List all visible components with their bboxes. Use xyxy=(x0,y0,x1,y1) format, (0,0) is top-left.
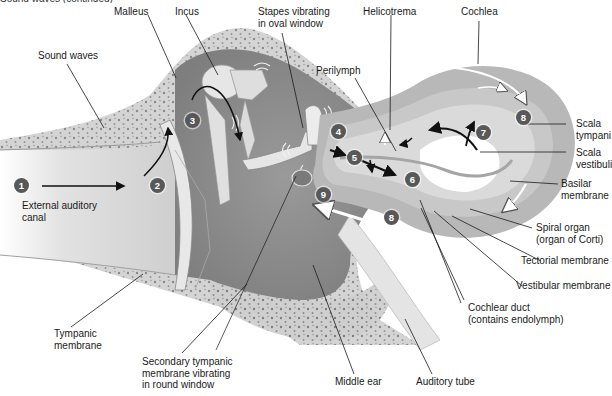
label-secondary-tympanic-membrane: Secondary tympanic membrane vibrating in… xyxy=(142,356,233,391)
step-badge-2: 2 xyxy=(150,178,165,193)
step-badge-7: 7 xyxy=(476,125,491,140)
label-auditory-tube: Auditory tube xyxy=(416,376,475,388)
label-scala-tympani: Scala tympani xyxy=(576,118,611,141)
step-badge-9: 9 xyxy=(316,187,331,202)
label-stapes: Stapes vibrating in oval window xyxy=(258,6,330,29)
label-perilymph: Perilymph xyxy=(316,65,360,77)
label-external-auditory-canal: External auditory canal xyxy=(22,200,97,223)
label-helicotrema: Helicotrema xyxy=(363,6,416,18)
label-incus: Incus xyxy=(175,6,199,18)
step-badge-6: 6 xyxy=(405,172,420,187)
step-badge-5: 5 xyxy=(347,150,362,165)
label-spiral-organ: Spiral organ (organ of Corti) xyxy=(536,222,603,245)
label-tectorial-membrane: Tectorial membrane xyxy=(521,255,609,267)
label-sound-waves: Sound waves xyxy=(38,50,98,62)
label-basilar-membrane: Basilar membrane xyxy=(561,178,609,201)
cut-off-header: Sound waves (continued) xyxy=(0,0,220,3)
step-badge-1: 1 xyxy=(14,178,29,193)
label-scala-vestibuli: Scala vestibuli xyxy=(576,147,612,170)
step-badge-8-cochlea: 8 xyxy=(516,110,531,125)
label-tympanic-membrane: Tympanic membrane xyxy=(54,328,102,351)
label-malleus: Malleus xyxy=(114,6,148,18)
step-badge-3: 3 xyxy=(185,113,200,128)
step-badge-8-tympani: 8 xyxy=(384,210,399,225)
label-vestibular-membrane: Vestibular membrane xyxy=(516,280,611,292)
ear-anatomy-diagram: Sound waves (continued) Malleus Incus St… xyxy=(0,0,612,396)
label-cochlea: Cochlea xyxy=(461,6,498,18)
label-middle-ear: Middle ear xyxy=(335,376,382,388)
step-badge-4: 4 xyxy=(331,124,346,139)
label-cochlear-duct: Cochlear duct (contains endolymph) xyxy=(468,302,564,325)
